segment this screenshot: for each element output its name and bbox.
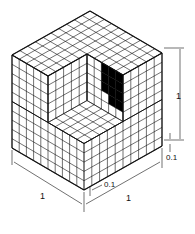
label-cell-height: 0.1 [166,154,177,162]
label-left-edge: 1 [40,192,45,201]
label-height: 1 [176,92,181,101]
outline [90,11,162,53]
label-cell-width: 0.1 [104,181,115,189]
cube-diagram [0,0,195,234]
label-bottom-right-edge: 1 [126,194,131,203]
outline [12,11,90,55]
